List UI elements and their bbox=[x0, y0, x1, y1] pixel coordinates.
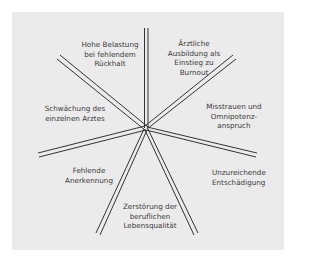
label-lebensqualitaet: Zerstörung der beruflichen Lebensqualitä… bbox=[110, 202, 190, 231]
label-schwaechung: Schwächung des einzelnen Arztes bbox=[35, 104, 115, 123]
label-entschaedigung: Unzureichende Entschädigung bbox=[212, 168, 282, 187]
label-misstrauen: Misstrauen und Omnipotenz- anspruch bbox=[194, 102, 274, 131]
spoke-right bbox=[146, 127, 257, 157]
label-anerkennung: Fehlende Anerkennung bbox=[54, 166, 124, 185]
label-aerztliche-ausbildung: Ärztliche Ausbildung als Einstieg zu Bur… bbox=[158, 39, 230, 77]
spoke-left bbox=[38, 126, 146, 157]
label-belastung: Hohe Belastung bei fehlendem Rückhalt bbox=[72, 40, 148, 69]
